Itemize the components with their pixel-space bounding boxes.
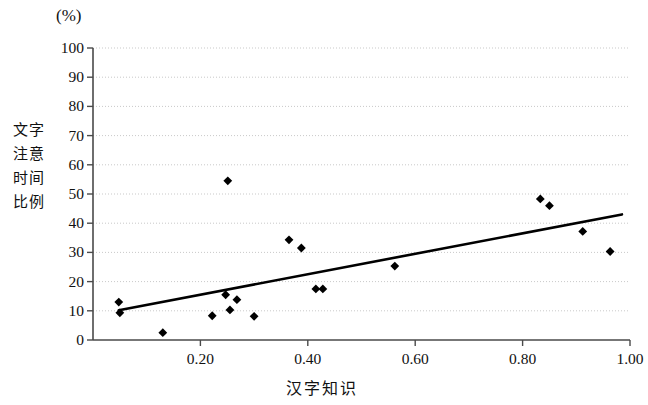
data-point-marker	[606, 247, 615, 256]
data-point-marker	[578, 227, 587, 236]
data-point-marker	[226, 306, 235, 315]
data-point-marker	[233, 295, 242, 304]
data-point-marker	[223, 176, 232, 185]
data-point-marker	[390, 262, 399, 271]
data-point-marker	[318, 285, 327, 294]
trend-line	[119, 214, 622, 310]
data-point-marker	[545, 201, 554, 210]
data-point-marker	[285, 235, 294, 244]
data-point-marker	[536, 195, 545, 204]
data-point-marker	[250, 312, 259, 321]
data-point-marker	[297, 244, 306, 253]
data-point-marker	[158, 328, 167, 337]
data-point-marker	[208, 311, 217, 320]
gridlines	[93, 48, 630, 311]
data-points	[114, 176, 614, 337]
data-point-marker	[114, 298, 123, 307]
trend-line-segment	[119, 214, 622, 310]
